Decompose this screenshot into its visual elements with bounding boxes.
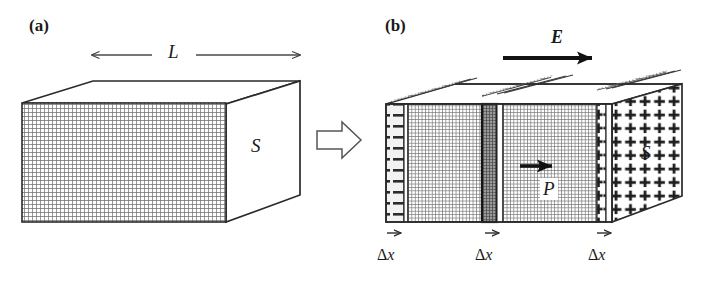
x-symbol-2: x bbox=[485, 246, 492, 263]
x-symbol-1: x bbox=[387, 246, 394, 263]
interior-slab bbox=[482, 104, 497, 222]
length-label: L bbox=[168, 41, 179, 63]
panel-a-tag: (a) bbox=[29, 16, 49, 36]
positive-charge-strip bbox=[597, 104, 606, 222]
delta-symbol-3: Δ bbox=[588, 246, 598, 263]
delta-x-label-1: Δx bbox=[377, 246, 394, 264]
delta-symbol-2: Δ bbox=[475, 246, 485, 263]
polarization-label: P bbox=[540, 178, 558, 200]
delta-symbol-1: Δ bbox=[377, 246, 387, 263]
negative-charge-layer bbox=[386, 104, 404, 222]
field-label: E bbox=[551, 27, 563, 48]
dielectric-bulk-left bbox=[408, 104, 482, 222]
block-right-face bbox=[226, 81, 300, 222]
delta-x-label-2: Δx bbox=[475, 246, 492, 264]
area-label-a: S bbox=[251, 135, 261, 157]
area-label-b: S bbox=[641, 142, 651, 164]
panel-b-tag: (b) bbox=[385, 16, 406, 36]
delta-x-label-3: Δx bbox=[588, 246, 605, 264]
dielectric-block-polarized bbox=[386, 70, 682, 222]
dielectric-bulk-right bbox=[503, 104, 597, 222]
block-front-face bbox=[22, 103, 226, 222]
figure-root: (a) L S (b) E P S Δx Δx Δx bbox=[0, 0, 703, 286]
diagram-canvas bbox=[0, 0, 703, 286]
block-arrow-right bbox=[317, 122, 361, 158]
x-symbol-3: x bbox=[598, 246, 605, 263]
